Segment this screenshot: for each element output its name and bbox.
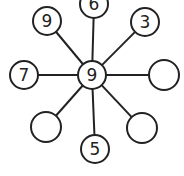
circle-label: 9	[42, 11, 53, 31]
node-bottom-right	[127, 113, 157, 143]
circle-label: 7	[19, 65, 30, 85]
node-top-left: 9	[33, 7, 61, 35]
node-left: 7	[10, 61, 38, 89]
circle-outline	[127, 113, 157, 143]
number-wheel-diagram: 963759	[0, 0, 184, 176]
center-node: 9	[78, 61, 106, 89]
node-top: 6	[80, 0, 108, 18]
circle-label: 3	[140, 12, 151, 32]
node-bottom-left	[31, 112, 61, 142]
spoke-line	[102, 85, 132, 117]
circle-label: 9	[87, 65, 98, 85]
circle-label: 6	[89, 0, 100, 14]
spoke-line	[102, 32, 135, 65]
circle-label: 5	[90, 139, 101, 159]
circle-outline	[149, 60, 179, 90]
node-right	[149, 60, 179, 90]
spoke-line	[56, 85, 83, 115]
node-top-right: 3	[131, 8, 159, 36]
spoke-line	[56, 32, 83, 64]
spoke-line	[93, 89, 95, 135]
circle-outline	[31, 112, 61, 142]
circles: 963759	[10, 0, 179, 163]
node-bottom: 5	[81, 135, 109, 163]
spoke-line	[92, 18, 93, 61]
